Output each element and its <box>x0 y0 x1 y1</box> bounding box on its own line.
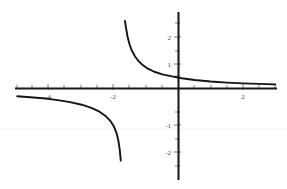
x-tick-label-2: 2 <box>241 93 245 101</box>
curve-upper-branch <box>125 21 275 84</box>
y-tick-label-2: -1 <box>165 122 171 130</box>
curve-lower-branch <box>17 96 121 160</box>
x-tick-label-1: -2 <box>110 93 116 101</box>
function-plot-figure: -4 -2 2 2 1 -1 -2 <box>0 0 287 189</box>
y-tick-label-1: 1 <box>168 61 172 69</box>
y-tick-label-0: 2 <box>168 34 172 42</box>
y-tick-label-3: -2 <box>165 149 171 157</box>
plot-canvas: -4 -2 2 2 1 -1 -2 <box>0 0 287 189</box>
